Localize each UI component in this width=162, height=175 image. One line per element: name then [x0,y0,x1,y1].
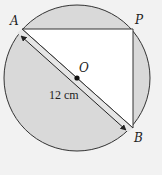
measurement-label: 12 cm [49,88,79,102]
label-o: O [79,61,89,75]
label-p: P [134,13,144,27]
label-b: B [133,131,143,145]
label-a: A [9,14,19,28]
center-point-o [74,75,79,80]
geometry-diagram: A P O B 12 cm [0,0,162,175]
